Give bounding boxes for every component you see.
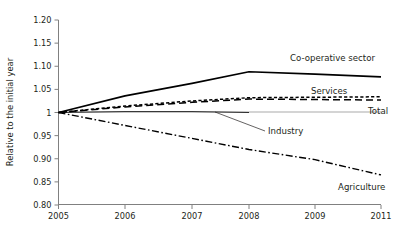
industry-leader-line xyxy=(215,112,265,131)
x-tick-label: 2009 xyxy=(305,211,326,221)
y-tick-label: 0.90 xyxy=(33,154,51,164)
y-tick-label: 1.15 xyxy=(33,38,51,48)
x-tick-label: 2006 xyxy=(115,211,136,221)
y-tick-label: 0.85 xyxy=(33,177,51,187)
y-axis-ticks: 1.201.151.101.0510.950.900.850.80 xyxy=(33,15,58,210)
series-label-agriculture: Agriculture xyxy=(338,182,385,192)
x-axis-ticks: 200520062007200820092011 xyxy=(48,205,391,221)
series-line-services xyxy=(59,97,382,113)
series-label-services: Services xyxy=(311,86,348,96)
x-tick-label: 2007 xyxy=(182,211,203,221)
x-tick-label: 2005 xyxy=(48,211,69,221)
series-label-total: Total xyxy=(367,106,388,116)
x-tick-label: 2008 xyxy=(239,211,260,221)
y-tick-label: 1.05 xyxy=(33,84,51,94)
series-line-agriculture xyxy=(59,113,382,175)
y-tick-label: 0.80 xyxy=(33,200,51,210)
series-label-co-operative-sector: Co-operative sector xyxy=(290,53,375,63)
x-tick-label: 2011 xyxy=(371,211,392,221)
series-label-industry: Industry xyxy=(268,126,303,136)
y-tick-label: 1.10 xyxy=(33,61,51,71)
chart-container: 1.201.151.101.0510.950.900.850.80 200520… xyxy=(0,0,402,238)
y-axis-title: Relative to the initial year xyxy=(5,57,15,166)
y-tick-label: 1.20 xyxy=(33,15,51,25)
y-tick-label: 1 xyxy=(46,108,51,118)
y-tick-label: 0.95 xyxy=(33,131,51,141)
line-chart: 1.201.151.101.0510.950.900.850.80 200520… xyxy=(0,0,402,238)
